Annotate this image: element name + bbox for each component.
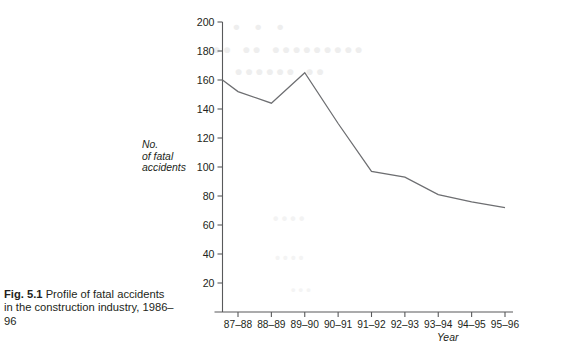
y-axis-title: No.of fatalaccidents <box>142 139 200 174</box>
x-axis-tick-label: 95–96 <box>481 319 529 330</box>
y-axis-title-line-3: accidents <box>142 162 200 174</box>
x-axis-title: Year <box>437 332 458 343</box>
chart-svg <box>0 0 573 358</box>
y-axis-tick-label: 20 <box>181 277 215 289</box>
fatal-accidents-series-line <box>223 73 506 208</box>
x-axis-ticks <box>238 312 505 317</box>
y-axis-tick-label: 40 <box>181 248 215 260</box>
y-axis-title-line-2: of fatal <box>142 151 200 163</box>
y-axis-tick-label: 60 <box>181 219 215 231</box>
chart-axes <box>215 22 514 317</box>
y-axis-tick-label: 140 <box>181 103 215 115</box>
line-chart: 20406080100120140160180200 87–8888–8989–… <box>0 0 573 358</box>
y-axis-tick-label: 80 <box>181 190 215 202</box>
y-axis-tick-label: 160 <box>181 74 215 86</box>
y-axis-tick-label: 180 <box>181 45 215 57</box>
y-axis-title-line-1: No. <box>142 139 200 151</box>
y-axis-ticks <box>218 22 223 283</box>
y-axis-tick-label: 200 <box>181 16 215 28</box>
